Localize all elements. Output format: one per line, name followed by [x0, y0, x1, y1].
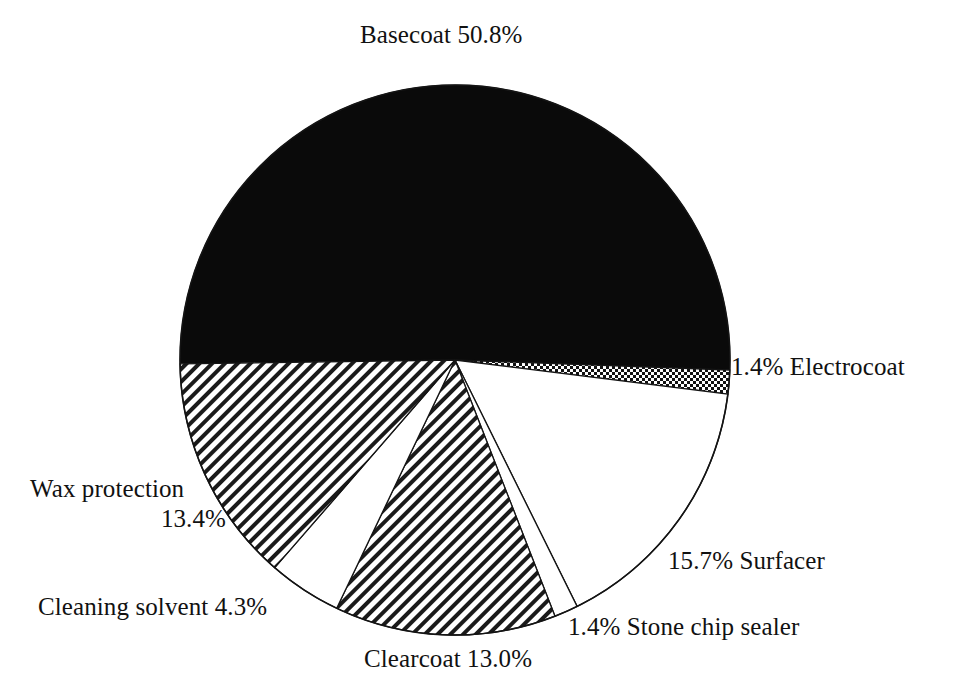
- slice-label-clearcoat: Clearcoat 13.0%: [364, 644, 532, 674]
- slice-label-wax-protection: Wax protection13.4%: [30, 474, 226, 533]
- pie-chart-figure: Basecoat 50.8% 1.4% Electrocoat 15.7% Su…: [0, 0, 957, 698]
- pie-slice-basecoat: [180, 85, 730, 370]
- slice-label-basecoat: Basecoat 50.8%: [360, 20, 522, 50]
- slice-label-stone-chip-sealer: 1.4% Stone chip sealer: [568, 612, 799, 642]
- pie-slices-group: [180, 85, 730, 635]
- slice-label-wax-protection-line1: Wax protection: [30, 475, 184, 502]
- slice-label-surfacer: 15.7% Surfacer: [668, 546, 825, 576]
- slice-label-cleaning-solvent: Cleaning solvent 4.3%: [38, 592, 267, 622]
- slice-label-wax-protection-line2: 13.4%: [30, 504, 226, 534]
- slice-label-electrocoat: 1.4% Electrocoat: [731, 352, 905, 382]
